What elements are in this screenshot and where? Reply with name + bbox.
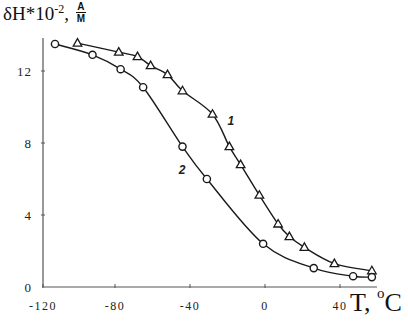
circle-marker [51, 40, 58, 47]
series-line [78, 43, 372, 271]
triangle-marker [300, 243, 309, 251]
circle-marker [89, 51, 96, 58]
circle-marker [350, 273, 357, 280]
y-axis-unit-denominator: M [76, 13, 86, 24]
x-axis-label-unit: C [384, 288, 401, 317]
y-axis-label-exponent: -2 [54, 2, 64, 16]
series-line [55, 44, 372, 277]
y-axis-label-main: δH*10 [3, 3, 54, 24]
y-tick-label: 8 [25, 136, 33, 151]
triangle-marker [236, 160, 245, 168]
y-tick-label: 4 [25, 208, 33, 223]
y-axis-label: δH*10-2, A M [3, 2, 86, 27]
y-tick-label: 0 [25, 280, 33, 295]
triangle-marker [255, 191, 264, 199]
x-tick-label: 40 [333, 299, 348, 313]
x-tick-label: 0 [261, 299, 269, 313]
axes: -120-80-4004004812 [17, 38, 377, 313]
chart-plot-area: -120-80-4004004812 12 [0, 0, 408, 325]
circle-marker [179, 143, 186, 150]
triangle-marker [163, 70, 172, 78]
series-2: 2 [51, 40, 375, 280]
triangle-marker [73, 39, 82, 47]
circle-marker [368, 274, 375, 281]
x-axis-label-degree: o [377, 285, 385, 301]
x-tick-label: -40 [180, 299, 201, 313]
y-axis-label-separator: , [64, 3, 69, 24]
x-tick-label: -120 [29, 299, 57, 313]
circle-marker [203, 175, 210, 182]
y-axis-unit-numerator: A [76, 1, 86, 13]
y-tick-label: 12 [17, 64, 32, 79]
circle-marker [117, 66, 124, 73]
circle-marker [310, 265, 317, 272]
x-tick-label: -80 [105, 299, 126, 313]
triangle-marker [225, 142, 234, 150]
circle-marker [260, 240, 267, 247]
curve-label-2: 2 [178, 163, 186, 177]
y-axis-unit-fraction: A M [76, 1, 86, 24]
curve-label-1: 1 [228, 114, 235, 128]
x-axis-label-main: T, [350, 288, 377, 317]
series-layer: 12 [51, 39, 376, 281]
x-axis-label: T, oC [350, 288, 402, 318]
circle-marker [140, 84, 147, 91]
triangle-marker [146, 61, 155, 69]
series-1: 1 [73, 39, 376, 274]
